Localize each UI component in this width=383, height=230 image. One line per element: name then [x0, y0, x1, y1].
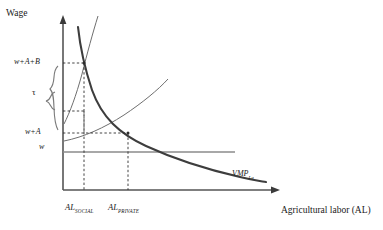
x-tick-label-al-social: ALSOCIAL — [65, 203, 94, 214]
plot-canvas — [0, 0, 383, 230]
al-private-subscript: PRIVATE — [118, 208, 139, 214]
supply-curve-left — [64, 16, 98, 124]
x-axis-title: Agricultural labor (AL) — [281, 206, 371, 216]
axis-lines — [60, 15, 280, 193]
equilibrium-markers — [83, 62, 130, 135]
y-tick-label-w-plus-a: w+A — [25, 128, 41, 136]
tau-label: τ — [32, 88, 36, 97]
social-equilibrium-point — [83, 62, 86, 65]
guide-lines — [63, 63, 128, 190]
vmp-label-subscript: La — [248, 175, 253, 180]
x-tick-label-al-private: ALPRIVATE — [108, 203, 139, 214]
y-tick-label-w-plus-a-plus-b: w+A+B — [14, 58, 40, 66]
al-social-subscript: SOCIAL — [75, 208, 94, 214]
al-social-base: AL — [65, 202, 75, 212]
y-axis-arrowhead — [60, 15, 67, 24]
tau-brace — [46, 66, 58, 130]
vmp-label-base: VMP — [232, 169, 248, 178]
supply-curve-right — [64, 79, 168, 141]
vmp-curve — [78, 27, 266, 182]
x-axis-arrowhead — [271, 187, 280, 194]
private-equilibrium-point — [127, 132, 130, 135]
y-axis-title: Wage — [6, 9, 27, 19]
al-private-base: AL — [108, 202, 118, 212]
economics-figure: Wage Agricultural labor (AL) w+A+B τ w+A… — [0, 0, 383, 230]
y-tick-label-w: w — [39, 143, 44, 151]
tau-brace-outer — [50, 66, 58, 130]
vmp-curve-label: VMPLa — [232, 170, 254, 180]
